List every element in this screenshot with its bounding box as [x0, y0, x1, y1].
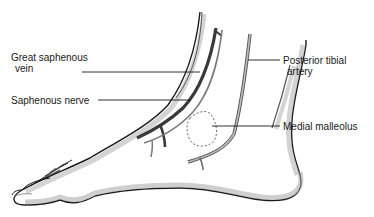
foot-illustration — [0, 0, 374, 217]
label-line: vein — [11, 63, 88, 74]
foot-outline — [14, 12, 306, 205]
foot-anatomy-diagram: Great saphenous vein Saphenous nerve Pos… — [0, 0, 374, 217]
label-line: artery — [283, 66, 346, 77]
label-medial-malleolus: Medial malleolus — [283, 121, 357, 132]
label-line: Posterior tibial — [283, 55, 346, 66]
medial-malleolus-outline — [187, 112, 217, 147]
label-saphenous-nerve: Saphenous nerve — [11, 95, 89, 106]
label-line: Great saphenous — [11, 52, 88, 63]
label-great-saphenous-vein: Great saphenous vein — [11, 52, 88, 74]
label-line: Saphenous nerve — [11, 95, 89, 106]
label-posterior-tibial-artery: Posterior tibial artery — [283, 55, 346, 77]
label-line: Medial malleolus — [283, 121, 357, 132]
